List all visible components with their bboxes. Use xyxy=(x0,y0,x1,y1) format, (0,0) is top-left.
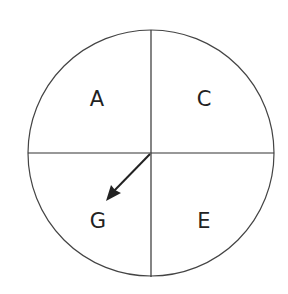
section-label-e: E xyxy=(197,209,210,233)
section-label-c: C xyxy=(197,87,212,111)
spinner-diagram: A C G E xyxy=(0,0,288,294)
section-label-a: A xyxy=(90,87,105,111)
section-label-g: G xyxy=(90,209,106,233)
